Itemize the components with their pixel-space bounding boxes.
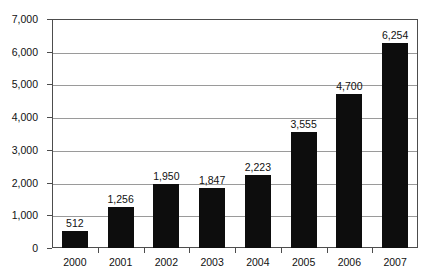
bar-value-label: 1,847 — [199, 175, 225, 186]
y-axis: 01,0002,0003,0004,0005,0006,0007,000 — [0, 0, 48, 273]
bar-slot: 4,700 — [327, 19, 373, 248]
x-axis-tick-label: 2005 — [281, 256, 327, 268]
bar[interactable]: 1,847 — [199, 188, 225, 248]
x-axis-ticks — [52, 248, 418, 254]
y-axis-tick-label: 1,000 — [12, 210, 38, 221]
bar-value-label: 3,555 — [290, 119, 316, 130]
bar-value-label: 2,223 — [245, 162, 271, 173]
bar-value-label: 1,256 — [107, 194, 133, 205]
bar[interactable]: 1,256 — [108, 207, 134, 248]
x-axis-labels: 20002001200220032004200520062007 — [52, 256, 418, 268]
x-axis-tick-label: 2001 — [98, 256, 144, 268]
y-axis-tick-label: 5,000 — [12, 79, 38, 90]
bar-slot: 1,847 — [189, 19, 235, 248]
x-axis-tick-label: 2007 — [372, 256, 418, 268]
bar-value-label: 4,700 — [336, 81, 362, 92]
x-axis-tick-label: 2000 — [52, 256, 98, 268]
bar[interactable]: 1,950 — [153, 184, 179, 248]
y-axis-tick-label: 0 — [32, 243, 38, 254]
bar-value-label: 1,950 — [153, 171, 179, 182]
bar-value-label: 6,254 — [382, 30, 408, 41]
y-axis-tick-label: 6,000 — [12, 46, 38, 57]
bar-slot: 1,950 — [144, 19, 190, 248]
y-axis-tick-label: 2,000 — [12, 177, 38, 188]
x-axis-tick-mark — [144, 248, 145, 253]
x-axis-tick-mark — [281, 248, 282, 253]
bar-slot: 3,555 — [281, 19, 327, 248]
bars-layer: 5121,2561,9501,8472,2233,5554,7006,254 — [52, 19, 418, 248]
x-axis-tick-label: 2003 — [189, 256, 235, 268]
x-axis-tick-label: 2002 — [144, 256, 190, 268]
bar-value-label: 512 — [66, 218, 84, 229]
bar-slot: 512 — [52, 19, 98, 248]
x-axis-tick-mark — [98, 248, 99, 253]
x-axis-tick-mark — [189, 248, 190, 253]
bar[interactable]: 6,254 — [382, 43, 408, 248]
x-axis-tick-mark — [372, 248, 373, 253]
x-axis-tick-mark — [235, 248, 236, 253]
x-axis-tick-label: 2004 — [235, 256, 281, 268]
bar[interactable]: 512 — [62, 231, 88, 248]
bar-slot: 6,254 — [372, 19, 418, 248]
bar-slot: 2,223 — [235, 19, 281, 248]
bar-chart: 01,0002,0003,0004,0005,0006,0007,000 512… — [0, 0, 433, 273]
y-axis-tick-label: 3,000 — [12, 144, 38, 155]
y-axis-tick-label: 4,000 — [12, 112, 38, 123]
x-axis-tick-label: 2006 — [327, 256, 373, 268]
y-axis-tick-label: 7,000 — [12, 14, 38, 25]
bar[interactable]: 3,555 — [291, 132, 317, 248]
bar[interactable]: 4,700 — [336, 94, 362, 248]
x-axis-tick-mark — [327, 248, 328, 253]
bar[interactable]: 2,223 — [245, 175, 271, 248]
bar-slot: 1,256 — [98, 19, 144, 248]
